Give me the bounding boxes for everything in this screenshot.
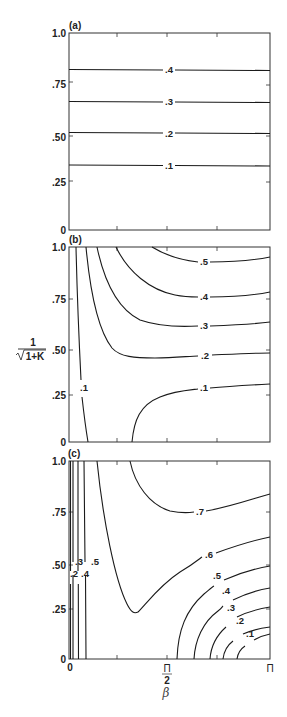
xtick-0: 0 [67,662,73,673]
contour-label-a-01: .1 [165,160,174,171]
x-axis-label: β [162,686,170,700]
contour-label-c-04-right: .4 [222,585,231,596]
contour-label-b-02: .2 [201,350,209,361]
contour-figure: (a) 1.0 .75 .50 .25 0 .4 [0,0,287,717]
panel-c-ytick-1: 1.0 [52,456,66,467]
panel-b-ytick-0: 0 [60,437,66,448]
panel-a-tag: (a) [69,20,81,31]
contour-label-c-05-right: .5 [213,570,222,581]
panel-a-ytick-1: 1.0 [52,28,66,39]
panel-b-ytick-050: .50 [52,345,66,356]
contour-label-c-01-right: .1 [246,628,255,639]
panel-b-ytick-025: .25 [52,390,66,401]
contour-label-b-01-left: .1 [80,382,89,393]
contour-label-b-04: .4 [200,291,209,302]
panel-b-ytick-1: 1.0 [52,242,66,253]
panel-b-ytick-075: .75 [52,294,66,305]
contour-label-a-04: .4 [165,64,174,75]
panel-a-ytick-050: .50 [52,132,66,143]
contour-label-c-06: .6 [205,549,213,560]
panel-a-ytick-025: .25 [52,177,66,188]
panel-b-tag: (b) [69,234,82,245]
contour-label-c-02-right: .2 [236,615,244,626]
contour-label-b-03: .3 [200,320,208,331]
contour-label-a-03: .3 [165,96,173,107]
contour-label-b-01-right: .1 [200,382,209,393]
contour-label-a-02: .2 [165,128,173,139]
ylabel-denominator: 1+K [26,351,45,362]
contour-label-c-02: .2 [70,568,78,579]
xtick-half-pi-denominator: 2 [164,675,170,686]
panel-c-ytick-075: .75 [52,507,66,518]
contour-label-c-07: .7 [196,506,204,517]
panel-c-ytick-025: .25 [52,604,66,615]
panel-a-ytick-075: .75 [52,79,66,90]
ylabel-numerator: 1 [30,337,36,348]
panel-a-ytick-0: 0 [60,225,66,236]
contour-label-b-05: .5 [200,256,209,267]
panel-c-ytick-0: 0 [60,654,66,665]
panel-c-tag: (c) [68,448,80,459]
contour-label-c-04: .4 [81,568,90,579]
xtick-pi: Π [266,663,273,674]
contour-label-c-03: .3 [75,556,83,567]
panel-c-ytick-050: .50 [52,560,66,571]
contour-label-c-05: .5 [91,556,100,567]
contour-label-c-03-right: .3 [227,602,235,613]
xtick-half-pi-numerator: Π [163,663,170,674]
